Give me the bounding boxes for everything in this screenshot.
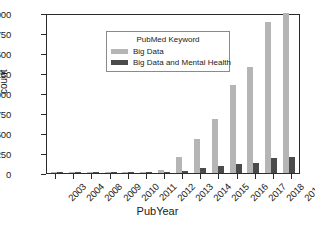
legend: PubMed Keyword Big Data Big Data and Men…	[106, 31, 230, 72]
x-axis-label: PubYear	[0, 205, 315, 217]
bar-2003-series-2[interactable]	[57, 172, 63, 173]
x-tick-mark	[110, 174, 111, 179]
y-tick-label: 500	[0, 129, 11, 140]
bar-2018-series-2[interactable]	[271, 158, 277, 173]
y-tick-label: 1750	[0, 29, 11, 40]
bar-2017-series-1[interactable]	[247, 67, 253, 173]
x-tick-mark	[146, 174, 147, 179]
legend-title: PubMed Keyword	[111, 35, 225, 44]
x-tick-mark	[291, 174, 292, 179]
y-tick-label: 1000	[0, 89, 11, 100]
y-tick-label: 250	[0, 149, 11, 160]
bar-2008-series-2[interactable]	[93, 172, 99, 173]
x-tick-mark	[73, 174, 74, 179]
y-tick-mark	[41, 174, 46, 175]
x-tick-label-2013: 2013	[193, 181, 215, 203]
x-tick-label-2017: 2017	[266, 181, 288, 203]
figure: count 025050075010001250150017502000 Pub…	[0, 0, 315, 225]
x-tick-mark	[273, 174, 274, 179]
x-tick-label-2015: 2015	[229, 181, 251, 203]
y-tick-label: 0	[6, 169, 11, 180]
x-tick-label-2009: 2009	[120, 181, 142, 203]
y-tick-label: 1250	[0, 69, 11, 80]
bar-group[interactable]	[48, 15, 66, 173]
legend-label-big-data: Big Data	[133, 47, 164, 56]
x-tick-mark	[200, 174, 201, 179]
x-tick-label-2019: 2019	[302, 181, 315, 203]
x-tick-mark	[255, 174, 256, 179]
bar-2019-series-1[interactable]	[283, 13, 289, 173]
x-tick-label-2003: 2003	[66, 181, 88, 203]
bar-2014-series-2[interactable]	[200, 168, 206, 173]
bar-2004-series-2[interactable]	[75, 172, 81, 173]
x-tick-label-2014: 2014	[211, 181, 233, 203]
x-tick-mark	[91, 174, 92, 179]
x-tick-mark	[218, 174, 219, 179]
legend-label-big-data-mental-health: Big Data and Mental Health	[133, 58, 231, 67]
bar-group[interactable]	[262, 15, 280, 173]
x-tick-label-2012: 2012	[175, 181, 197, 203]
bar-group[interactable]	[66, 15, 84, 173]
bar-2016-series-2[interactable]	[236, 164, 242, 173]
bar-2015-series-2[interactable]	[218, 166, 224, 173]
bar-group[interactable]	[84, 15, 102, 173]
legend-entry-big-data: Big Data	[111, 47, 225, 56]
x-tick-label-2011: 2011	[157, 181, 179, 203]
bar-2009-series-2[interactable]	[111, 172, 117, 173]
plot-area: PubMed Keyword Big Data Big Data and Men…	[46, 14, 300, 174]
x-tick-label-2016: 2016	[247, 181, 269, 203]
y-tick-label: 1500	[0, 49, 11, 60]
x-tick-label-2004: 2004	[84, 181, 106, 203]
x-tick-label-2008: 2008	[102, 181, 124, 203]
x-tick-mark	[128, 174, 129, 179]
bar-2013-series-2[interactable]	[182, 171, 188, 173]
bar-2011-series-2[interactable]	[146, 172, 152, 173]
legend-swatch-big-data-mental-health	[111, 60, 128, 65]
x-tick-mark	[55, 174, 56, 179]
bar-2018-series-1[interactable]	[265, 22, 271, 173]
legend-entry-big-data-mental-health: Big Data and Mental Health	[111, 58, 225, 67]
bar-2012-series-2[interactable]	[164, 172, 170, 173]
x-tick-label-2010: 2010	[139, 181, 161, 203]
bar-2017-series-2[interactable]	[253, 163, 259, 173]
bar-2016-series-1[interactable]	[230, 85, 236, 173]
bar-2015-series-1[interactable]	[212, 119, 218, 173]
legend-swatch-big-data	[111, 49, 128, 54]
x-tick-label-2018: 2018	[284, 181, 306, 203]
x-tick-mark	[182, 174, 183, 179]
bar-2010-series-2[interactable]	[128, 172, 134, 173]
bar-group[interactable]	[280, 15, 298, 173]
x-tick-mark	[237, 174, 238, 179]
bar-2019-series-2[interactable]	[289, 157, 295, 173]
y-tick-label: 2000	[0, 9, 11, 20]
bar-group[interactable]	[244, 15, 262, 173]
x-tick-mark	[164, 174, 165, 179]
y-tick-label: 750	[0, 109, 11, 120]
